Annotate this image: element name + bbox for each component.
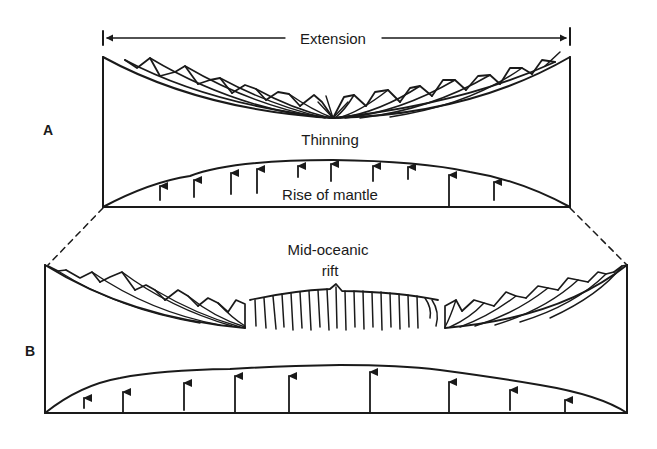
- connector-left-dashed: [48, 208, 103, 265]
- thinning-label: Thinning: [301, 131, 359, 148]
- panel-b-label: B: [25, 343, 35, 359]
- panel-a-fault-blocks: [125, 52, 560, 118]
- extension-label: Extension: [300, 30, 366, 47]
- rifting-diagram: Extension: [0, 0, 657, 449]
- panel-b-rift-dikes: [250, 284, 438, 330]
- rise-of-mantle-label: Rise of mantle: [282, 186, 378, 203]
- panel-a-label: A: [43, 122, 53, 138]
- panel-a: [103, 52, 570, 207]
- panel-b-mantle-boundary: [45, 365, 627, 413]
- panel-a-basin-floor: [103, 57, 570, 118]
- connector-right-dashed: [570, 208, 627, 265]
- panel-b-fault-blocks-left: [48, 266, 245, 328]
- rift-label-line1: Mid-oceanic: [288, 241, 369, 258]
- rift-label-line2: rift: [322, 262, 339, 279]
- panel-b: [45, 265, 627, 413]
- rift-top: [250, 284, 438, 300]
- panel-b-fault-blocks-right: [445, 265, 627, 328]
